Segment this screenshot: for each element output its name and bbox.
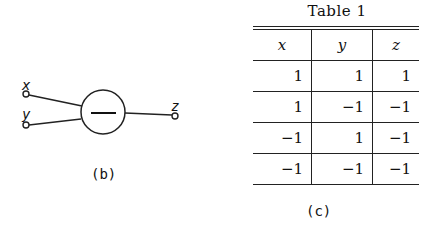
input-y-label: y [22, 106, 30, 122]
header-z: z [373, 30, 420, 61]
input-y-edge [29, 119, 81, 125]
cell-x: −1 [253, 154, 312, 185]
cell-z: −1 [373, 154, 420, 185]
caption-c: (c) [306, 203, 331, 219]
table-row: −1 −1 −1 [253, 154, 419, 185]
cell-y: 1 [312, 61, 373, 92]
cell-y: 1 [312, 123, 373, 154]
cell-x: 1 [253, 92, 312, 123]
truth-table: x y z 1 1 1 1 −1 −1 −1 1 −1 −1 −1 −1 [253, 26, 419, 185]
input-x-edge [29, 95, 82, 106]
table-header-row: x y z [253, 30, 419, 61]
cell-y: −1 [312, 92, 373, 123]
cell-z: −1 [373, 123, 420, 154]
output-z-edge [125, 113, 172, 115]
cell-x: 1 [253, 61, 312, 92]
cell-y: −1 [312, 154, 373, 185]
input-x-label: x [22, 77, 30, 93]
table-title: Table 1 [254, 2, 420, 20]
table-row: 1 −1 −1 [253, 92, 419, 123]
input-y-terminal [23, 122, 29, 128]
caption-b: (b) [91, 166, 116, 182]
table-row: −1 1 −1 [253, 123, 419, 154]
cell-z: −1 [373, 92, 420, 123]
cell-x: −1 [253, 123, 312, 154]
output-z-label: z [171, 98, 179, 114]
cell-z: 1 [373, 61, 420, 92]
header-x: x [253, 30, 312, 61]
header-y: y [312, 30, 373, 61]
table-row: 1 1 1 [253, 61, 419, 92]
